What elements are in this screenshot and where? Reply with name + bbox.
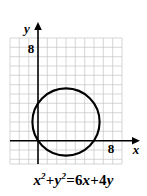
equation-plus-1: + [46,172,55,188]
y-axis-arrowhead [34,22,42,30]
coordinate-plane-graph: y x 8 8 [0,0,147,172]
y-axis-tick-label-8: 8 [28,41,35,56]
y-axis-label: y [22,21,30,36]
x-axis-label: x [132,142,140,157]
circle-graph-figure: y x 8 8 x2+y2=6x+4y [0,0,147,196]
equation-equals-sign: = [66,172,75,188]
equation-plus-2: + [90,172,99,188]
equation-caption: x2+y2=6x+4y [0,172,147,189]
equation-rhs-coef-4: 4 [99,172,107,188]
equation-rhs-var-y: y [107,172,114,188]
equation-lhs-x: x [33,172,41,188]
x-axis-tick-label-8: 8 [108,141,115,156]
equation-rhs-coef-6: 6 [75,172,83,188]
